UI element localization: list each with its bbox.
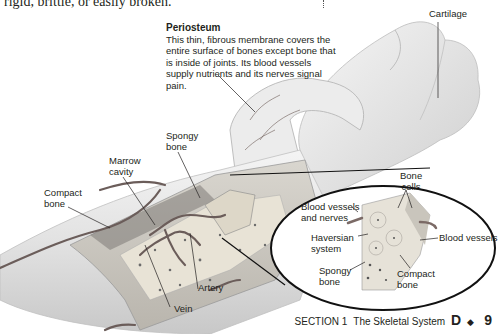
label-marrow-cavity: Marrow cavity xyxy=(109,155,141,177)
textbook-page: rigid, brittle, or easily broken. xyxy=(0,0,502,334)
label-compact-bone: Compact bone xyxy=(44,187,82,209)
label-line: cells xyxy=(400,181,422,192)
page-number: 9 xyxy=(484,312,492,328)
label-cartilage: Cartilage xyxy=(429,8,467,19)
inset-label-haversian-system: Haversian system xyxy=(311,232,354,254)
label-line: Marrow xyxy=(109,155,141,166)
label-line: Compact xyxy=(397,268,435,279)
label-line: bone xyxy=(397,279,435,290)
label-spongy-bone: Spongy bone xyxy=(166,130,198,152)
label-line: Bone xyxy=(400,170,422,181)
inset-label-spongy-bone: Spongy bone xyxy=(319,265,351,287)
label-line: bone xyxy=(166,141,198,152)
footer-unit: D xyxy=(451,312,461,328)
diamond-icon: ◆ xyxy=(467,317,474,327)
periosteum-caption: Periosteum This thin, fibrous membrane c… xyxy=(166,22,341,91)
inset-label-bone-cells: Bone cells xyxy=(400,170,422,192)
label-line: and nerves xyxy=(301,212,360,223)
label-line: bone xyxy=(44,198,82,209)
label-vein: Vein xyxy=(174,303,193,314)
page-footer: SECTION 1 The Skeletal System D ◆ 9 xyxy=(295,312,492,328)
label-line: Haversian xyxy=(311,232,354,243)
label-line: Spongy xyxy=(319,265,351,276)
inset-label-compact-bone: Compact bone xyxy=(397,268,435,290)
caption-title: Periosteum xyxy=(166,22,341,34)
footer-title: The Skeletal System xyxy=(353,316,445,327)
label-line: Blood vessels xyxy=(301,201,360,212)
label-line: bone xyxy=(319,276,351,287)
label-artery: Artery xyxy=(198,282,223,293)
inset-label-blood-vessels-and-nerves: Blood vessels and nerves xyxy=(301,201,360,223)
inset-label-blood-vessels: Blood vessels xyxy=(439,232,498,243)
caption-text: This thin, fibrous membrane covers the e… xyxy=(166,34,336,91)
footer-section: SECTION 1 xyxy=(295,316,348,327)
label-line: Compact xyxy=(44,187,82,198)
label-line: cavity xyxy=(109,166,141,177)
label-line: Spongy xyxy=(166,130,198,141)
label-line: system xyxy=(311,243,354,254)
